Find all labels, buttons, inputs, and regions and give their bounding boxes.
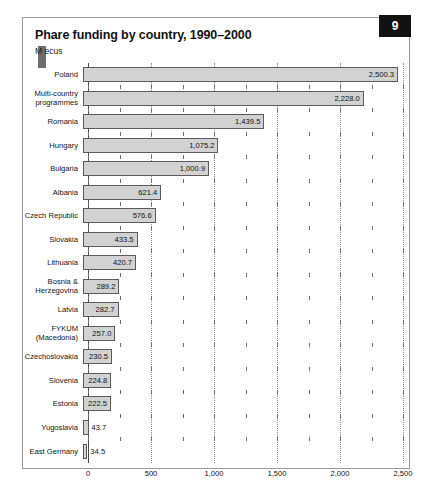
- category-label-line: Hungary: [23, 141, 78, 150]
- category-label-line: (Macedonia): [23, 333, 78, 342]
- category-label: Slovenia: [23, 376, 83, 385]
- bar: 224.8: [83, 373, 111, 388]
- bar-row: Bosnia &Herzegovina289.2: [23, 275, 411, 299]
- category-label: East Germany: [23, 447, 83, 456]
- bar: 34.5: [83, 444, 87, 459]
- bar-value-label: 43.7: [88, 423, 107, 432]
- bar-track: 230.5: [83, 345, 411, 369]
- bar-value-label: 222.5: [88, 399, 110, 408]
- category-label: Multi-countryprogrammes: [23, 89, 83, 107]
- x-tick-label: 1,500: [267, 469, 286, 478]
- bar-value-label: 257.0: [92, 329, 114, 338]
- bar-row: Latvia282.7: [23, 298, 411, 322]
- category-label-line: Romania: [23, 117, 78, 126]
- bar: 222.5: [83, 396, 111, 411]
- category-label: Poland: [23, 70, 83, 79]
- bar-track: 433.5: [83, 228, 411, 252]
- bar: 621.4: [83, 185, 161, 200]
- bar-row: Hungary1,075.2: [23, 134, 411, 158]
- x-tick-label: 1,000: [204, 469, 223, 478]
- bar-track: 576.6: [83, 204, 411, 228]
- category-label: Bosnia &Herzegovina: [23, 277, 83, 295]
- category-label: Estonia: [23, 399, 83, 408]
- category-label-line: Bulgaria: [23, 164, 78, 173]
- bar-value-label: 1,000.9: [180, 164, 208, 173]
- chart-title: Phare funding by country, 1990–2000: [35, 28, 251, 42]
- bar-value-label: 282.7: [96, 305, 118, 314]
- bar-track: 1,439.5: [83, 110, 411, 134]
- bar-track: 420.7: [83, 251, 411, 275]
- bar: 420.7: [83, 255, 136, 270]
- bar-value-label: 224.8: [88, 376, 110, 385]
- bar-row: Czechoslovakia230.5: [23, 345, 411, 369]
- category-label-line: Poland: [23, 70, 78, 79]
- category-label-line: Czechoslovakia: [23, 352, 78, 361]
- bar: 2,228.0: [83, 91, 364, 106]
- bar-value-label: 2,500.3: [369, 70, 397, 79]
- bar-track: 34.5: [83, 439, 411, 463]
- bar-value-label: 433.5: [115, 235, 137, 244]
- bar-track: 257.0: [83, 322, 411, 346]
- page-number-badge: 9: [379, 15, 411, 37]
- bar-row: Slovenia224.8: [23, 369, 411, 393]
- category-label-line: Yugoslavia: [23, 423, 78, 432]
- category-label-line: Slovakia: [23, 235, 78, 244]
- bar-row: Yugoslavia43.7: [23, 416, 411, 440]
- bar-row: Albania621.4: [23, 181, 411, 205]
- x-tick-label: 2,000: [330, 469, 349, 478]
- category-label-line: programmes: [23, 98, 78, 107]
- bar: 257.0: [83, 326, 115, 341]
- category-label-line: Estonia: [23, 399, 78, 408]
- category-label-line: Bosnia &: [23, 277, 78, 286]
- bar: 1,439.5: [83, 114, 264, 129]
- bar: 289.2: [83, 279, 119, 294]
- bar-track: 224.8: [83, 369, 411, 393]
- bar: 43.7: [83, 420, 89, 435]
- category-label: FYKUM(Macedonia): [23, 324, 83, 342]
- bar-track: 282.7: [83, 298, 411, 322]
- category-label: Albania: [23, 188, 83, 197]
- plot-area: Poland2,500.3Multi-countryprogrammes2,22…: [23, 63, 411, 463]
- bar-track: 1,075.2: [83, 134, 411, 158]
- x-axis-tick-labels: 05001,0001,5002,0002,500: [88, 465, 409, 483]
- bar-value-label: 621.4: [138, 188, 160, 197]
- x-tick-label: 500: [145, 469, 158, 478]
- bar-row: Lithuania420.7: [23, 251, 411, 275]
- bar: 2,500.3: [83, 67, 398, 82]
- category-label-line: Slovenia: [23, 376, 78, 385]
- bar-row: Romania1,439.5: [23, 110, 411, 134]
- bar-rows: Poland2,500.3Multi-countryprogrammes2,22…: [23, 63, 411, 463]
- bar-value-label: 1,075.2: [189, 141, 217, 150]
- bar-value-label: 576.6: [133, 211, 155, 220]
- bar-track: 289.2: [83, 275, 411, 299]
- bar-value-label: 34.5: [86, 447, 105, 456]
- bar: 576.6: [83, 208, 156, 223]
- bar-value-label: 1,439.5: [235, 117, 263, 126]
- bar-row: Slovakia433.5: [23, 228, 411, 252]
- category-label-line: East Germany: [23, 447, 78, 456]
- bar-value-label: 420.7: [113, 258, 135, 267]
- bar-row: East Germany34.5: [23, 439, 411, 463]
- bar-value-label: 289.2: [96, 282, 118, 291]
- category-label-line: Czech Republic: [23, 211, 78, 220]
- x-tick-label: 2,500: [393, 469, 412, 478]
- category-label: Lithuania: [23, 258, 83, 267]
- bar: 1,000.9: [83, 161, 209, 176]
- category-label: Latvia: [23, 305, 83, 314]
- category-label-line: FYKUM: [23, 324, 78, 333]
- category-label: Slovakia: [23, 235, 83, 244]
- bar-row: Poland2,500.3: [23, 63, 411, 87]
- bar-track: 1,000.9: [83, 157, 411, 181]
- bar: 433.5: [83, 232, 138, 247]
- category-label-line: Multi-country: [23, 89, 78, 98]
- bar-row: Multi-countryprogrammes2,228.0: [23, 87, 411, 111]
- bar-track: 222.5: [83, 392, 411, 416]
- bar-track: 2,500.3: [83, 63, 411, 87]
- chart-card: 9 Phare funding by country, 1990–2000 M …: [22, 17, 410, 469]
- category-label: Yugoslavia: [23, 423, 83, 432]
- bar-value-label: 2,228.0: [334, 94, 362, 103]
- bar-row: FYKUM(Macedonia)257.0: [23, 322, 411, 346]
- category-label: Bulgaria: [23, 164, 83, 173]
- x-tick-label: 0: [86, 469, 90, 478]
- bar-track: 2,228.0: [83, 87, 411, 111]
